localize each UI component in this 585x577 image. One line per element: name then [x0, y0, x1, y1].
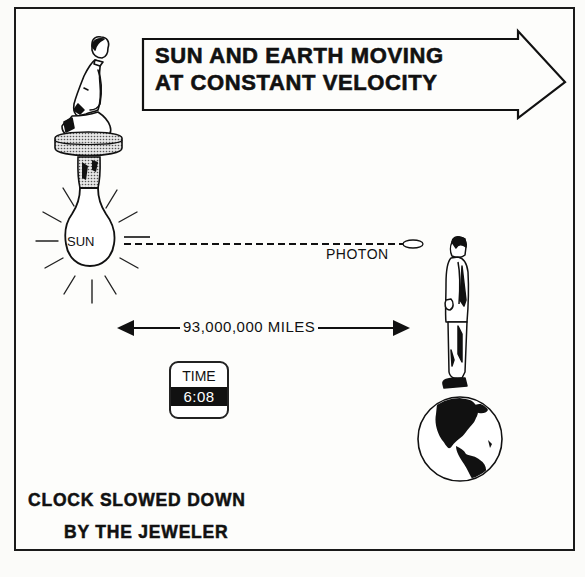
socket-icon: [55, 132, 122, 188]
earth-globe-icon: [418, 397, 502, 484]
distance-label: 93,000,000 MILES: [180, 318, 318, 335]
clock-time: 6:08: [171, 387, 227, 406]
kneeling-person-icon: [62, 37, 111, 136]
caption-line-1-text: CLOCK SLOWED DOWN: [28, 490, 246, 511]
sun-bulb-icon: [65, 188, 114, 266]
clock-label: TIME: [171, 368, 227, 385]
banner-line-2: AT CONSTANT VELOCITY: [155, 69, 385, 96]
banner-line-1: SUN AND EARTH MOVING: [155, 42, 385, 69]
standing-man-icon: [443, 237, 469, 388]
photon-label: PHOTON: [326, 246, 389, 262]
banner-title: SUN AND EARTH MOVING AT CONSTANT VELOCIT…: [155, 42, 385, 96]
caption-line-2: BY THE JEWELER: [64, 522, 229, 543]
clock-display: TIME 6:08: [169, 361, 229, 419]
caption-line-1: CLOCK SLOWED DOWN: [28, 490, 246, 511]
caption-line-2-text: BY THE JEWELER: [64, 522, 229, 543]
sun-label: SUN: [67, 234, 94, 249]
